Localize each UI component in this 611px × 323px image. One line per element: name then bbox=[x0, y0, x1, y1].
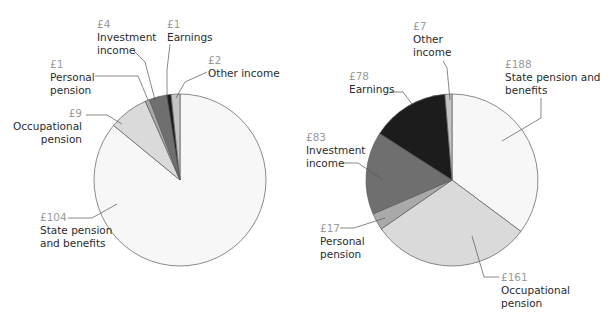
label-name: income bbox=[413, 46, 451, 59]
label-investment-income: £83Investmentincome bbox=[306, 131, 365, 170]
pie-charts-figure: £104State pensionand benefits£9Occupatio… bbox=[0, 0, 611, 323]
label-occupational-pension: £161Occupationalpension bbox=[501, 271, 570, 310]
label-earnings: £1Earnings bbox=[167, 18, 213, 44]
label-value: £9 bbox=[4, 107, 82, 120]
label-name: Personal bbox=[320, 235, 365, 248]
label-name: State pension and bbox=[505, 71, 600, 84]
label-name: and benefits bbox=[40, 237, 112, 250]
label-value: £104 bbox=[40, 211, 112, 224]
label-value: £83 bbox=[306, 131, 365, 144]
label-name: income bbox=[97, 44, 156, 57]
label-value: £78 bbox=[349, 70, 395, 83]
label-name: income bbox=[306, 157, 365, 170]
label-name: Other bbox=[413, 33, 451, 46]
label-name: Personal bbox=[50, 71, 95, 84]
leader-line bbox=[95, 76, 148, 100]
label-state-pension-and-benefits: £188State pension andbenefits bbox=[505, 58, 600, 97]
label-name: pension bbox=[501, 297, 570, 310]
label-name: pension bbox=[4, 133, 82, 146]
label-name: pension bbox=[320, 248, 365, 261]
label-value: £7 bbox=[413, 20, 451, 33]
label-state-pension-and-benefits: £104State pensionand benefits bbox=[40, 211, 112, 250]
label-value: £161 bbox=[501, 271, 570, 284]
pie-chart-right bbox=[366, 94, 538, 266]
label-name: pension bbox=[50, 84, 95, 97]
label-name: benefits bbox=[505, 84, 600, 97]
label-name: Investment bbox=[97, 31, 156, 44]
label-name: State pension bbox=[40, 224, 112, 237]
label-personal-pension: £1Personalpension bbox=[50, 58, 95, 97]
label-earnings: £78Earnings bbox=[349, 70, 395, 96]
label-value: £188 bbox=[505, 58, 600, 71]
label-value: £1 bbox=[167, 18, 213, 31]
label-name: Investment bbox=[306, 144, 365, 157]
label-name: Occupational bbox=[501, 284, 570, 297]
label-name: Other income bbox=[208, 67, 280, 80]
label-name: Occupational bbox=[4, 120, 82, 133]
label-other-income: £7Otherincome bbox=[413, 20, 451, 59]
label-value: £17 bbox=[320, 222, 365, 235]
label-name: Earnings bbox=[349, 83, 395, 96]
label-value: £2 bbox=[208, 54, 280, 67]
label-occupational-pension: £9Occupationalpension bbox=[4, 107, 82, 146]
label-value: £4 bbox=[97, 18, 156, 31]
label-investment-income: £4Investmentincome bbox=[97, 18, 156, 57]
label-other-income: £2Other income bbox=[208, 54, 280, 80]
label-value: £1 bbox=[50, 58, 95, 71]
pie-chart-left bbox=[94, 94, 266, 266]
leader-line bbox=[133, 50, 155, 100]
label-name: Earnings bbox=[167, 31, 213, 44]
label-personal-pension: £17Personalpension bbox=[320, 222, 365, 261]
leader-line bbox=[167, 44, 170, 97]
